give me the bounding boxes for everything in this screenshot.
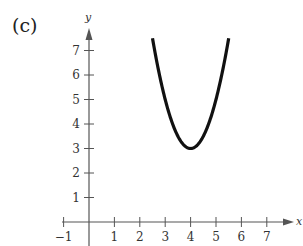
y-tick-label: 6: [72, 68, 80, 82]
x-axis-label: x: [296, 215, 303, 228]
x-axis-arrow-icon: [283, 219, 294, 226]
y-tick-label: 7: [72, 44, 80, 58]
x-tick-label: 5: [212, 230, 220, 244]
axes: −112345671234567xy: [55, 11, 303, 246]
parabola-curve: [153, 38, 229, 148]
y-tick-label: 4: [72, 117, 80, 131]
x-tick-label: 7: [263, 230, 271, 244]
figure: (c) −112345671234567xy: [0, 0, 303, 246]
x-tick-label: 6: [238, 230, 246, 244]
x-tick-label: 3: [161, 230, 169, 244]
y-tick-label: 1: [72, 191, 80, 205]
y-tick-label: 3: [72, 142, 80, 156]
y-axis-arrow-icon: [86, 28, 93, 40]
x-tick-label: 4: [187, 230, 195, 244]
y-axis-label: y: [84, 11, 92, 24]
x-tick-label: −1: [55, 230, 73, 244]
y-tick-label: 5: [72, 93, 80, 107]
plot-area: −112345671234567xy: [0, 0, 303, 246]
panel-label: (c): [12, 14, 37, 36]
x-tick-label: 2: [136, 230, 144, 244]
x-tick-label: 1: [111, 230, 119, 244]
y-tick-label: 2: [72, 166, 80, 180]
parabola-path: [153, 38, 229, 148]
